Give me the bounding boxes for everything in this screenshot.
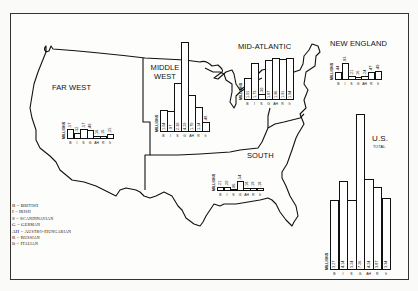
legend-name: Italian — [20, 241, 38, 246]
bar-it — [202, 122, 210, 132]
x-tick-label: R — [373, 272, 382, 276]
x-tick-label: AH — [243, 193, 250, 197]
bar-value-label: 1.70 — [190, 123, 194, 130]
bar-chart-far-west: MILLIONS.57B.32I.57S.49G.16AH.16R.25It — [67, 129, 113, 139]
bar-chart-south: MILLIONS.21B.20I.06S.54G.18AH.19R.18It — [217, 181, 263, 191]
x-tick-label: I — [339, 272, 348, 276]
bar-value-label: .49 — [376, 65, 380, 70]
bar-value-label: .16 — [101, 130, 105, 135]
x-tick-label: S — [347, 272, 356, 276]
x-tick-label: I — [342, 82, 349, 86]
x-tick-label: B — [335, 82, 342, 86]
bar-value-label: 1.14 — [197, 123, 201, 130]
bar-chart-mid-atlantic: MILLIONS1.01B1.73I.30S1.87G1.96AH1.91R1.… — [244, 58, 293, 100]
bar-value-label: 4.24 — [367, 261, 371, 268]
x-tick-label: I — [251, 102, 258, 106]
y-axis-label: MILLIONS — [62, 122, 66, 139]
bar-value-label: .25 — [108, 128, 112, 133]
legend: B = British I = Irish S = Scandinavian G… — [12, 203, 71, 248]
x-tick-label: I — [74, 141, 81, 145]
y-axis-label: MILLIONS — [239, 83, 243, 100]
x-tick-label: It — [382, 272, 391, 276]
x-tick-label: S — [258, 102, 265, 106]
y-axis-label: MILLIONS — [325, 253, 329, 270]
legend-name: Scandinavian — [20, 216, 53, 221]
x-tick-label: S — [80, 141, 87, 145]
x-tick-label: G — [87, 141, 94, 145]
x-tick-label: I — [224, 193, 231, 197]
x-tick-label: S — [174, 134, 181, 138]
x-tick-label: AH — [364, 272, 373, 276]
x-tick-label: R — [195, 134, 202, 138]
bar-value-label: .47 — [369, 65, 373, 70]
bar-value-label: 1.04 — [162, 123, 166, 130]
legend-code: I — [12, 209, 14, 214]
region-label-far-west: FAR WEST — [52, 84, 91, 92]
bar-value-label: .16 — [95, 130, 99, 135]
x-tick-label: R — [368, 82, 375, 86]
x-tick-label: G — [355, 82, 362, 86]
x-tick-label: R — [100, 141, 107, 145]
bar-value-label: 1.87 — [267, 91, 271, 98]
x-tick-label: AH — [93, 141, 100, 145]
bar-value-label: .93 — [343, 57, 347, 62]
bar-value-label: .44 — [336, 66, 340, 71]
bar-value-label: .20 — [225, 181, 229, 186]
bar-value-label: .32 — [75, 127, 79, 132]
bar-chart-u-s: MILLIONS3.27B4.14I3.24S7.26G4.24AH3.87R3… — [330, 114, 390, 270]
x-tick-label: B — [67, 141, 74, 145]
x-tick-label: B — [330, 272, 339, 276]
region-label-mid-atlantic: MID-ATLANTIC — [238, 43, 291, 51]
bar-value-label: .54 — [238, 175, 242, 180]
x-tick-label: G — [181, 134, 188, 138]
y-axis-label: MILLIONS — [155, 115, 159, 132]
bar-value-label: .19 — [251, 181, 255, 186]
legend-item: It = Italian — [12, 241, 71, 247]
bar-it — [382, 198, 391, 270]
bar-value-label: .16 — [356, 71, 360, 76]
bar-chart-new-england: MILLIONS.44B.93I.21S.16G.24AH.47R.49It — [335, 63, 381, 80]
x-tick-label: R — [279, 102, 286, 106]
bar-value-label: 1.96 — [274, 91, 278, 98]
bar-it — [375, 71, 382, 80]
x-tick-label: S — [348, 82, 355, 86]
bar-it — [107, 134, 114, 139]
bar-value-label: .57 — [82, 122, 86, 127]
bar-value-label: 3.34 — [384, 261, 388, 268]
bar-value-label: 4.20 — [183, 123, 187, 130]
x-tick-label: It — [202, 134, 209, 138]
bar-value-label: 2.30 — [176, 123, 180, 130]
x-tick-label: It — [286, 102, 293, 106]
bar-value-label: .18 — [258, 181, 262, 186]
legend-name: Austro-Hungarian — [25, 229, 72, 234]
legend-code: S — [12, 216, 15, 221]
boundary-mid-atlantic — [268, 108, 270, 128]
legend-name: Irish — [19, 209, 31, 214]
bar-value-label: 3.87 — [375, 261, 379, 268]
x-tick-label: B — [160, 134, 167, 138]
bar-value-label: .24 — [363, 69, 367, 74]
x-tick-label: S — [230, 193, 237, 197]
x-tick-label: G — [265, 102, 272, 106]
x-tick-label: It — [257, 193, 264, 197]
bar-value-label: .57 — [68, 122, 72, 127]
x-tick-label: B — [217, 193, 224, 197]
x-tick-label: I — [167, 134, 174, 138]
bar-value-label: 1.01 — [246, 91, 250, 98]
x-tick-label: R — [250, 193, 257, 197]
legend-code: It — [12, 241, 15, 246]
y-axis-label: MILLIONS — [212, 174, 216, 191]
legend-name: German — [21, 222, 40, 227]
legend-code: B — [12, 203, 15, 208]
bar-value-label: .21 — [218, 181, 222, 186]
x-tick-label: B — [244, 102, 251, 106]
bar-value-label: .06 — [232, 184, 236, 189]
x-tick-label: It — [107, 141, 114, 145]
legend-name: British — [21, 203, 39, 208]
bar-value-label: 4.14 — [341, 261, 345, 268]
bar-value-label: 3.27 — [332, 261, 336, 268]
x-tick-label: AH — [272, 102, 279, 106]
bar-value-label: .48 — [204, 115, 208, 120]
x-tick-label: AH — [361, 82, 368, 86]
y-axis-label: MILLIONS — [330, 63, 334, 80]
